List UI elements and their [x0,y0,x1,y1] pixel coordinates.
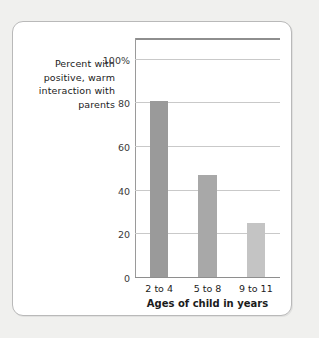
x-axis-line [135,277,280,279]
plot-frame [135,38,280,278]
bar [247,223,265,278]
bar [198,175,216,278]
plot-area: 020406080100% 2 to 45 to 89 to 11 Ages o… [135,38,280,278]
plot-top-rule [135,38,280,40]
y-tick-label: 0 [124,273,130,284]
y-tick-label: 60 [118,142,130,153]
y-axis-label: Percent with positive, warm interaction … [23,57,115,111]
category-label: 2 to 4 [145,283,173,294]
y-tick-label: 80 [118,98,130,109]
chart-card: Percent with positive, warm interaction … [12,21,292,316]
category-label: 5 to 8 [194,283,222,294]
y-axis-line [135,38,136,278]
y-tick-label: 100% [103,54,130,65]
x-axis-title: Ages of child in years [135,298,280,309]
bar [150,101,168,278]
y-tick-label: 40 [118,185,130,196]
y-tick-label: 20 [118,229,130,240]
gridline [135,59,280,60]
category-label: 9 to 11 [239,283,273,294]
